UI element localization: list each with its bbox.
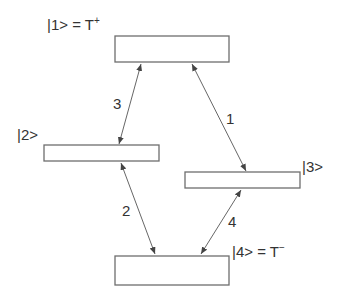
state-box-1 (115, 36, 229, 62)
state-transition-diagram: |1> = T+ |2> |3> |4> = T− 1 2 3 4 (0, 0, 344, 299)
transition-label-4: 4 (228, 213, 236, 230)
state-label-4: |4> = T− (232, 242, 285, 260)
state-label-2: |2> (17, 126, 38, 143)
state-box-2 (44, 145, 159, 161)
state-box-4 (115, 256, 229, 285)
transition-label-2: 2 (122, 202, 130, 219)
transition-label-3: 3 (113, 95, 121, 112)
transition-arrow-3 (119, 64, 141, 144)
transition-arrow-1 (192, 64, 246, 171)
state-label-1: |1> = T+ (47, 15, 100, 33)
state-label-3: |3> (302, 158, 323, 175)
state-box-3 (185, 172, 300, 188)
transition-label-1: 1 (226, 110, 234, 127)
